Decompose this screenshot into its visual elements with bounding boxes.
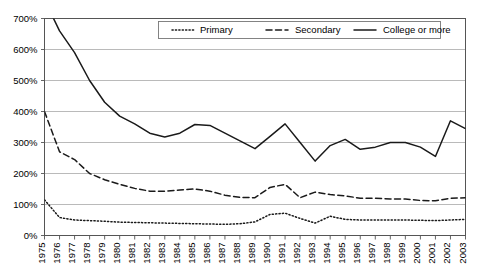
legend-label-primary: Primary [200, 24, 233, 35]
x-axis-ticks-group [45, 236, 466, 240]
y-axis-tick-label: 200% [13, 168, 38, 179]
x-axis-tick-label: 1981 [126, 243, 137, 264]
x-axis-tick-label: 1982 [141, 243, 152, 264]
y-axis-tick-label: 600% [13, 44, 38, 55]
x-axis-tick-label: 2000 [411, 243, 422, 264]
x-axis-tick-label: 1987 [216, 243, 227, 264]
x-axis-tick-label: 2003 [457, 243, 468, 264]
y-axis-tick-label: 500% [13, 75, 38, 86]
x-axis-tick-label: 1980 [111, 243, 122, 264]
x-axis-tick-label: 1993 [306, 243, 317, 264]
y-axis-labels-group: 0%100%200%300%400%500%600%700% [13, 13, 44, 241]
x-axis-tick-label: 1999 [396, 243, 407, 264]
x-axis-tick-label: 1997 [366, 243, 377, 264]
plot-frame [45, 19, 466, 236]
series-line-secondary [45, 112, 466, 201]
line-chart: 0%100%200%300%400%500%600%700% 197519761… [0, 0, 482, 276]
y-axis-tick-label: 700% [13, 13, 38, 24]
x-axis-tick-label: 1985 [186, 243, 197, 264]
series-line-primary [45, 200, 466, 224]
x-axis-tick-label: 1976 [51, 243, 62, 264]
chart-legend: PrimarySecondaryCollege or more [159, 22, 451, 39]
gridlines-group [45, 19, 466, 205]
x-axis-tick-label: 1978 [81, 243, 92, 264]
x-axis-tick-label: 1992 [291, 243, 302, 264]
x-axis-tick-label: 1990 [261, 243, 272, 264]
x-axis-tick-label: 2001 [426, 243, 437, 264]
x-axis-tick-label: 1996 [351, 243, 362, 264]
x-axis-tick-label: 1991 [276, 243, 287, 264]
x-axis-labels-group: 1975197619771978197919801981198219831984… [36, 243, 468, 264]
x-axis-tick-label: 1984 [171, 243, 182, 264]
x-axis-tick-label: 1986 [201, 243, 212, 264]
x-axis-tick-label: 1988 [231, 243, 242, 264]
x-axis-tick-label: 1977 [66, 243, 77, 264]
y-axis-tick-label: 400% [13, 106, 38, 117]
x-axis-tick-label: 1995 [336, 243, 347, 264]
y-axis-tick-label: 0% [24, 230, 38, 241]
x-axis-tick-label: 1975 [36, 243, 47, 264]
x-axis-tick-label: 1983 [156, 243, 167, 264]
x-axis-tick-label: 1989 [246, 243, 257, 264]
chart-container: 0%100%200%300%400%500%600%700% 197519761… [0, 0, 482, 276]
x-axis-tick-label: 1998 [381, 243, 392, 264]
y-axis-tick-label: 100% [13, 199, 38, 210]
x-axis-tick-label: 1994 [321, 243, 332, 264]
x-axis-tick-label: 2002 [441, 243, 452, 264]
legend-label-secondary: Secondary [295, 24, 341, 35]
y-axis-tick-label: 300% [13, 137, 38, 148]
legend-label-college-or-more: College or more [383, 24, 451, 35]
x-axis-tick-label: 1979 [96, 243, 107, 264]
plot-area-border [45, 19, 466, 236]
